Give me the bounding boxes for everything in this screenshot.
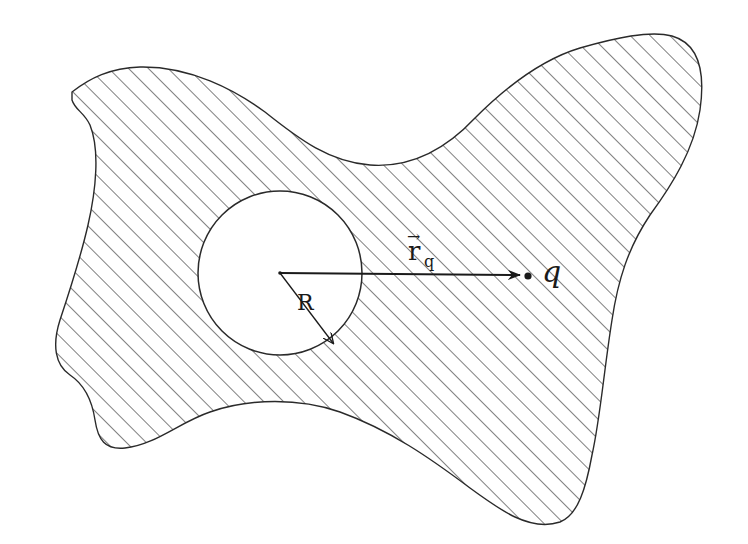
position-vector-letter: r xyxy=(408,236,421,266)
conductor-region xyxy=(56,34,702,525)
position-vector-subscript: q xyxy=(424,252,434,271)
cavity-conductor-diagram: R → r q q xyxy=(0,0,748,544)
conductor-hatch-fill xyxy=(56,34,702,525)
point-charge-dot xyxy=(524,272,531,279)
radius-label: R xyxy=(297,290,315,315)
charge-label: q xyxy=(542,254,561,289)
